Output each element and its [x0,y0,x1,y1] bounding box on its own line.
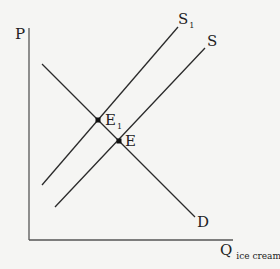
s1-label-sub: 1 [189,21,194,30]
s1-label-main: S [178,10,188,28]
e1-label-sub: 1 [117,122,122,131]
s1-label: S1 [178,12,194,27]
e-label: E [125,134,136,149]
s-label: S [207,34,217,49]
x-axis-label-main: Q [220,241,232,259]
y-axis-label-text: P [15,25,25,43]
d-label: D [197,215,209,230]
diagram-graphics [0,0,280,269]
equilibrium-point-e [117,139,122,144]
supply-curve-s [55,48,205,207]
s-label-main: S [207,32,217,50]
x-axis-label-sub: ice cream [236,251,280,261]
equilibrium-point-e1 [96,118,101,123]
x-axis-label: Qice cream [220,243,280,258]
e-label-main: E [125,132,136,150]
e1-label: E1 [105,113,122,128]
supply-demand-diagram: P S1 S D E1 E Qice cream [0,0,280,269]
e1-label-main: E [105,111,116,129]
y-axis-label: P [15,27,25,42]
d-label-main: D [197,213,209,231]
supply-curve-s1 [42,27,178,185]
